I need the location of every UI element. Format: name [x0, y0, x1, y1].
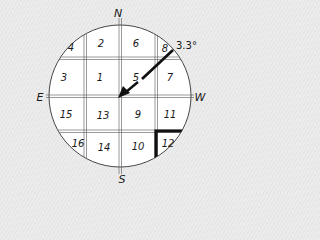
cell-label-9: 9: [135, 109, 141, 120]
cell-label-12: 12: [162, 138, 175, 149]
cell-label-5: 5: [133, 72, 139, 83]
cell-label-8: 8: [162, 43, 168, 54]
cell-label-4: 4: [68, 42, 74, 53]
compass-south-label: S: [119, 173, 126, 186]
cell-label-7: 7: [167, 72, 174, 83]
cell-label-14: 14: [98, 142, 111, 153]
cell-label-10: 10: [132, 141, 145, 152]
cell-label-15: 15: [60, 109, 73, 120]
angle-label: 3.3°: [176, 40, 197, 51]
cell-label-1: 1: [97, 72, 103, 83]
compass-east-label: E: [37, 91, 44, 104]
compass-grid-diagram: N S E W 3.3° 42683157151391116141012: [0, 0, 235, 193]
cell-label-3: 3: [61, 72, 67, 83]
cell-label-13: 13: [97, 110, 110, 121]
compass-west-label: W: [195, 91, 207, 104]
diagram-canvas: N S E W 3.3° 42683157151391116141012: [0, 0, 235, 193]
cell-label-11: 11: [164, 109, 177, 120]
cell-label-2: 2: [98, 38, 104, 49]
cell-label-16: 16: [72, 138, 85, 149]
cell-label-6: 6: [133, 38, 139, 49]
compass-north-label: N: [114, 7, 122, 20]
